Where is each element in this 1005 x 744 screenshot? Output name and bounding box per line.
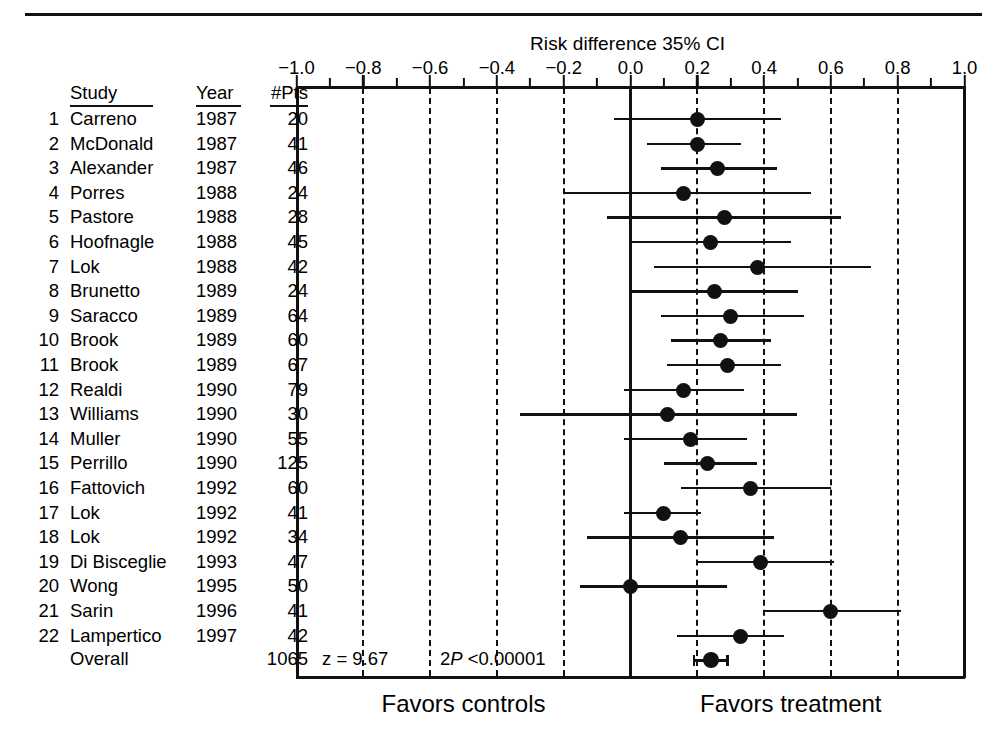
row-year: 1987: [196, 156, 244, 180]
overall-z-statistic: z = 9.67: [322, 645, 388, 673]
p-suffix: <0.00001: [463, 648, 546, 669]
point-estimate-marker: [683, 432, 698, 447]
forest-row: 13Williams199030: [0, 402, 1005, 426]
row-index: 2: [33, 132, 59, 156]
forest-row: 14Muller199055: [0, 427, 1005, 451]
forest-row: 4Porres198824: [0, 181, 1005, 205]
row-year: 1989: [196, 353, 244, 377]
overall-ci-cap: [693, 655, 696, 666]
row-year: 1992: [196, 501, 244, 525]
p-prefix: 2: [440, 648, 450, 669]
x-tick-major: [763, 75, 765, 86]
row-patient-count: 47: [254, 550, 308, 574]
row-year: 1988: [196, 181, 244, 205]
row-year: 1988: [196, 230, 244, 254]
row-year: 1996: [196, 599, 244, 623]
forest-row: 3Alexander198746: [0, 156, 1005, 180]
row-patient-count: 24: [254, 279, 308, 303]
row-patient-count: 55: [254, 427, 308, 451]
row-index: 1: [33, 107, 59, 131]
footer-label-favors-treatment: Favors treatment: [700, 690, 881, 718]
point-estimate-marker: [707, 284, 722, 299]
forest-row: 8Brunetto198924: [0, 279, 1005, 303]
point-estimate-marker: [743, 481, 758, 496]
x-tick-minor: [730, 78, 732, 86]
x-tick-minor: [863, 78, 865, 86]
row-year: 1992: [196, 525, 244, 549]
row-year: 1993: [196, 550, 244, 574]
forest-plot-figure: Risk difference 35% CI −1.0−0.8−0.6−0.4−…: [0, 0, 1005, 744]
row-year: 1989: [196, 304, 244, 328]
plot-bottom-border: [296, 676, 965, 679]
row-index: 14: [33, 427, 59, 451]
confidence-interval-line: [520, 413, 797, 415]
point-estimate-marker: [690, 112, 705, 127]
row-index: 22: [33, 624, 59, 648]
row-patient-count: 24: [254, 181, 308, 205]
point-estimate-marker: [690, 137, 705, 152]
row-patient-count: 41: [254, 599, 308, 623]
forest-row: 17Lok199241: [0, 501, 1005, 525]
row-year: 1990: [196, 402, 244, 426]
x-tick-major: [896, 75, 898, 86]
row-year: 1992: [196, 476, 244, 500]
x-tick-minor: [529, 78, 531, 86]
overall-pts: 1065: [240, 645, 308, 673]
row-index: 5: [33, 205, 59, 229]
column-header-study: Study: [70, 82, 153, 107]
forest-row: 20Wong199550: [0, 574, 1005, 598]
point-estimate-marker: [660, 407, 675, 422]
row-patient-count: 41: [254, 501, 308, 525]
forest-row: 22Lampertico199742: [0, 624, 1005, 648]
point-estimate-marker: [750, 260, 765, 275]
row-patient-count: 41: [254, 132, 308, 156]
point-estimate-marker: [823, 604, 838, 619]
footer-label-favors-controls: Favors controls: [381, 690, 545, 718]
forest-row: 15Perrillo1990125: [0, 451, 1005, 475]
row-patient-count: 60: [254, 328, 308, 352]
column-header-pts: #Pts: [270, 82, 308, 107]
row-index: 3: [33, 156, 59, 180]
x-tick-major: [830, 75, 832, 86]
x-tick-minor: [796, 78, 798, 86]
row-patient-count: 28: [254, 205, 308, 229]
row-index: 7: [33, 255, 59, 279]
row-patient-count: 46: [254, 156, 308, 180]
overall-ci-cap: [726, 655, 729, 666]
top-divider: [25, 13, 982, 16]
chart-title: Risk difference 35% CI: [530, 33, 725, 55]
confidence-interval-line: [580, 585, 727, 587]
x-tick-major: [496, 75, 498, 86]
row-index: 18: [33, 525, 59, 549]
row-year: 1995: [196, 574, 244, 598]
point-estimate-marker: [623, 579, 638, 594]
point-estimate-marker: [710, 161, 725, 176]
x-tick-minor: [596, 78, 598, 86]
point-estimate-marker: [733, 629, 748, 644]
overall-row: Overall 1065 z = 9.67 2P <0.00001: [0, 645, 1005, 675]
x-tick-minor: [663, 78, 665, 86]
overall-p-value: 2P <0.00001: [440, 645, 545, 673]
row-patient-count: 42: [254, 255, 308, 279]
row-index: 11: [33, 353, 59, 377]
point-estimate-marker: [673, 530, 688, 545]
point-estimate-marker: [676, 383, 691, 398]
row-patient-count: 30: [254, 402, 308, 426]
row-year: 1997: [196, 624, 244, 648]
row-index: 17: [33, 501, 59, 525]
row-year: 1990: [196, 378, 244, 402]
x-tick-minor: [930, 78, 932, 86]
row-index: 12: [33, 378, 59, 402]
row-year: 1987: [196, 132, 244, 156]
row-patient-count: 67: [254, 353, 308, 377]
forest-row: 2McDonald198741: [0, 132, 1005, 156]
row-patient-count: 42: [254, 624, 308, 648]
row-year: 1987: [196, 107, 244, 131]
row-year: 1990: [196, 427, 244, 451]
x-tick-minor: [396, 78, 398, 86]
row-patient-count: 60: [254, 476, 308, 500]
row-index: 20: [33, 574, 59, 598]
row-index: 9: [33, 304, 59, 328]
forest-row: 5Pastore198828: [0, 205, 1005, 229]
column-header-year: Year: [196, 82, 241, 107]
